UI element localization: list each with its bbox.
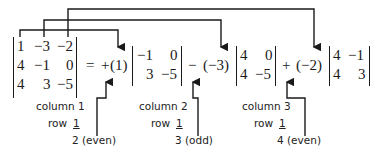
minor-cell: 0 [265, 47, 273, 64]
minor-cell: 4 [333, 47, 341, 64]
det-left-bar [13, 37, 14, 98]
minor-cell: 4 [333, 66, 341, 83]
matrix-cell: −1 [34, 57, 50, 74]
equals-sign: = [86, 57, 94, 74]
minor-cell: 4 [240, 66, 248, 83]
arrow-entry3-to-coef3 [68, 9, 314, 47]
term2-row-label: row [151, 117, 170, 129]
matrix-cell: 1 [17, 38, 25, 55]
term2-row-number: 1 [176, 117, 183, 129]
minor-cell: −5 [255, 66, 271, 83]
term2-parity-label: 3 (odd) [175, 134, 213, 146]
det-right-bar [76, 37, 77, 98]
minor3-right-bar [369, 46, 370, 86]
term1-coefficient: (1) [110, 57, 128, 74]
term3-row-label: row [254, 117, 273, 129]
minor-cell: 3 [358, 66, 366, 83]
minor3-left-bar [329, 46, 330, 86]
arrow-parity1-to-sign1 [97, 82, 106, 136]
minor-cell: −5 [161, 66, 177, 83]
term3-column-label: column 3 [242, 100, 291, 112]
minor1-right-bar [181, 46, 182, 86]
term1-sign: + [101, 57, 109, 74]
matrix-cell: 0 [66, 57, 74, 74]
term1-row-label: row [48, 117, 67, 129]
minor1-left-bar [132, 46, 133, 86]
minor2-right-bar [275, 46, 276, 86]
minor-cell: −1 [137, 47, 153, 64]
matrix-cell: −2 [57, 38, 73, 55]
term2-coefficient: (−3) [203, 57, 229, 74]
minor-cell: 4 [240, 47, 248, 64]
matrix-cell: 4 [17, 76, 25, 93]
term3-sign: + [282, 57, 290, 74]
matrix-cell: −3 [34, 38, 50, 55]
minor-cell: 0 [170, 47, 178, 64]
term3-coefficient: (−2) [296, 57, 322, 74]
term2-column-label: column 2 [139, 100, 188, 112]
minor-cell: 3 [146, 66, 154, 83]
arrow-parity2-to-sign2 [193, 82, 198, 136]
matrix-cell: 4 [17, 57, 25, 74]
term1-column-label: column 1 [36, 100, 85, 112]
term3-row-number: 1 [279, 117, 286, 129]
term3-parity-label: 4 (even) [277, 134, 321, 146]
matrix-cell: 3 [43, 76, 51, 93]
term1-row-number: 1 [73, 117, 80, 129]
term2-sign: − [188, 57, 196, 74]
minor2-left-bar [236, 46, 237, 86]
matrix-cell: −5 [57, 76, 73, 93]
term1-parity-label: 2 (even) [72, 134, 116, 146]
minor-cell: −1 [348, 47, 364, 64]
